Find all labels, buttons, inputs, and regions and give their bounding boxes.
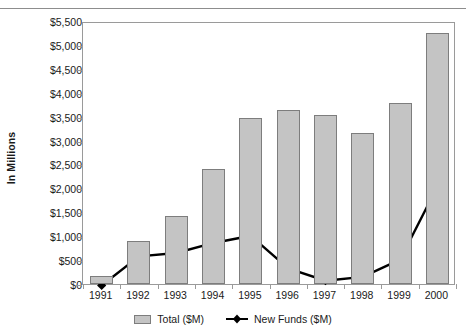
x-axis-tick-labels: 1991199219931994199519961997199819992000 bbox=[82, 289, 455, 307]
chart-legend: Total ($M) New Funds ($M) bbox=[0, 313, 466, 325]
y-axis-tick-label: $2,500 bbox=[2, 160, 82, 170]
bar-1992 bbox=[127, 241, 150, 284]
bar-1995 bbox=[239, 118, 262, 284]
y-axis-tick-label: $1,500 bbox=[2, 208, 82, 218]
legend-item-new-funds: New Funds ($M) bbox=[226, 313, 332, 325]
bar-1997 bbox=[314, 115, 337, 284]
bar-1994 bbox=[202, 169, 225, 284]
bar-1999 bbox=[389, 103, 412, 284]
y-axis-tick-label: $4,500 bbox=[2, 65, 82, 75]
y-axis-tick-label: $3,500 bbox=[2, 113, 82, 123]
line-diamond-icon bbox=[226, 314, 248, 324]
y-axis-tick-mark bbox=[76, 285, 82, 286]
y-axis-tick-label: $3,000 bbox=[2, 137, 82, 147]
y-axis-tick-label: $4,000 bbox=[2, 89, 82, 99]
bar-1996 bbox=[277, 110, 300, 284]
legend-label-new-funds: New Funds ($M) bbox=[254, 313, 332, 325]
chart-container: In Millions $5,500$5,000$4,500$4,000$3,5… bbox=[0, 14, 466, 331]
new-funds-line bbox=[102, 187, 438, 286]
y-axis-tick-label: $500 bbox=[2, 256, 82, 266]
legend-label-total: Total ($M) bbox=[157, 313, 204, 325]
bar-1998 bbox=[351, 133, 374, 284]
legend-item-total: Total ($M) bbox=[134, 313, 204, 325]
plot-area bbox=[82, 22, 455, 285]
y-axis-tick-label: $2,000 bbox=[2, 184, 82, 194]
y-axis-tick-label: $5,000 bbox=[2, 41, 82, 51]
y-axis-tick-label: $0 bbox=[2, 280, 82, 290]
y-axis-tick-label: $5,500 bbox=[2, 17, 82, 27]
bar-1993 bbox=[165, 216, 188, 284]
bar-swatch-icon bbox=[134, 315, 151, 324]
top-divider bbox=[0, 8, 466, 9]
x-axis-tick-label: 2000 bbox=[413, 289, 459, 301]
bar-1991 bbox=[90, 276, 113, 284]
y-axis-tick-label: $1,000 bbox=[2, 232, 82, 242]
bar-2000 bbox=[426, 33, 449, 284]
